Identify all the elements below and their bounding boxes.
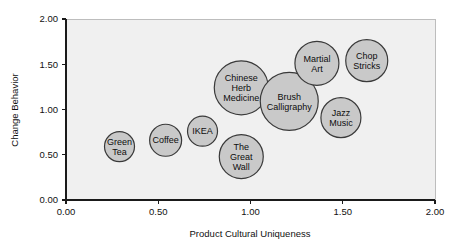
x-axis-ticks: 0.000.501.001.502.00 xyxy=(57,200,445,217)
bubble-point[interactable]: JazzMusic xyxy=(321,98,361,138)
bubble-point[interactable]: ChopStricks xyxy=(346,40,388,82)
bubble-chart-canvas: 0.000.501.001.502.00 0.000.501.001.502.0… xyxy=(0,0,462,248)
bubble-circle[interactable] xyxy=(188,116,218,146)
bubble-point[interactable]: Coffee xyxy=(150,124,182,156)
x-axis-title: Product Cultural Uniqueness xyxy=(190,228,311,239)
x-tick-label: 2.00 xyxy=(426,206,445,217)
y-tick-label: 0.50 xyxy=(40,149,59,160)
y-axis-ticks: 0.000.501.001.502.00 xyxy=(40,13,67,205)
x-tick-label: 1.50 xyxy=(334,206,353,217)
bubble-point[interactable]: GreenTea xyxy=(105,132,135,162)
bubble-circle[interactable] xyxy=(321,98,361,138)
bubble-circle[interactable] xyxy=(295,41,339,85)
y-tick-label: 0.00 xyxy=(40,194,59,205)
bubble-point[interactable]: IKEA xyxy=(188,116,218,146)
y-axis-title: Change Behavior xyxy=(9,73,20,146)
bubble-circle[interactable] xyxy=(219,135,263,179)
y-tick-label: 1.50 xyxy=(40,59,59,70)
bubble-circle[interactable] xyxy=(346,40,388,82)
x-tick-label: 0.00 xyxy=(57,206,76,217)
bubble-point[interactable]: TheGreatWall xyxy=(219,135,263,179)
bubble-circle[interactable] xyxy=(105,132,135,162)
bubble-chart-figure: 0.000.501.001.502.00 0.000.501.001.502.0… xyxy=(0,0,462,248)
bubble-circle[interactable] xyxy=(150,124,182,156)
y-tick-label: 1.00 xyxy=(40,104,59,115)
x-tick-label: 0.50 xyxy=(149,206,168,217)
bubble-point[interactable]: MartialArt xyxy=(295,41,339,85)
x-tick-label: 1.00 xyxy=(241,206,260,217)
y-tick-label: 2.00 xyxy=(40,13,59,24)
